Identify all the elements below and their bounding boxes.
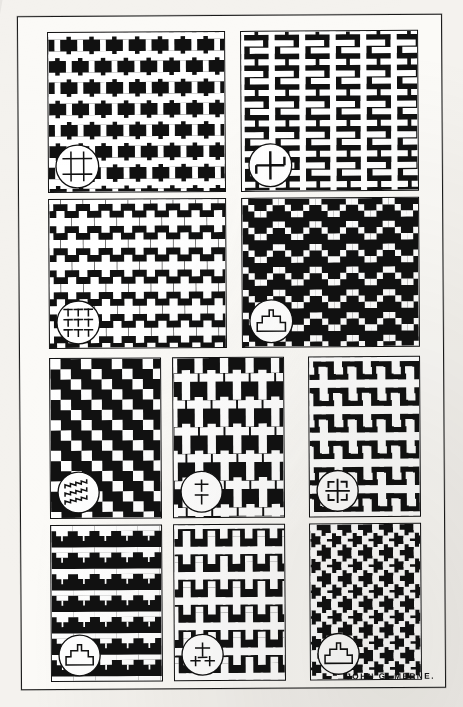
stepped-line-key-motif (58, 472, 99, 513)
pattern-art-interlocking-i-beam-fret (48, 32, 225, 192)
artist-signature: JOHN G. MERNE. (346, 672, 435, 682)
pattern-art-stepped-chevron (242, 198, 419, 347)
tee-cluster-key-motif (57, 301, 100, 344)
fylfot-key-motif (249, 144, 292, 187)
ibeam-key-motif (56, 145, 99, 188)
pattern-panel-labyrinth-cross-fret (308, 356, 421, 518)
pattern-panel-interlocking-i-beam-fret (47, 31, 226, 193)
pattern-art-diagonal-stepped-bands (50, 358, 161, 518)
pattern-art-stepped-pyramid-rows (51, 525, 162, 681)
pattern-panel-diagonal-stepped-bands (49, 357, 162, 519)
pattern-art-labyrinth-cross-fret (309, 357, 420, 517)
pattern-art-interlocking-greek-cross (49, 199, 226, 348)
stepped-arch-key-motif (318, 633, 359, 674)
pattern-art-zigzag-stepped-lightning (310, 524, 421, 680)
pattern-art-latin-cross-diaper (173, 358, 284, 518)
pattern-panel-compound-cross-diaper (173, 524, 286, 682)
pattern-panel-zigzag-stepped-lightning (309, 523, 422, 681)
pattern-panel-stepped-pyramid-rows (50, 524, 163, 682)
stepped-dome-key-motif (59, 635, 100, 676)
ornament-plate: JOHN G. MERNE. (0, 0, 463, 707)
labyrinth-cross-key-motif (317, 470, 358, 511)
panel-grid (18, 15, 445, 690)
pattern-panel-stepped-chevron (241, 197, 420, 348)
pattern-art-compound-cross-diaper (174, 525, 285, 681)
compound-cross-key-motif (182, 634, 223, 675)
pattern-panel-interlocking-greek-cross (48, 198, 227, 349)
pattern-panel-latin-cross-diaper (172, 357, 285, 519)
latin-cross-key-motif (181, 471, 222, 512)
plate-frame: JOHN G. MERNE. (17, 14, 446, 691)
stepped-pyramid-key-motif (250, 300, 293, 343)
pattern-panel-meander-fylfot-fret (240, 30, 419, 192)
pattern-art-meander-fylfot-fret (241, 31, 418, 191)
